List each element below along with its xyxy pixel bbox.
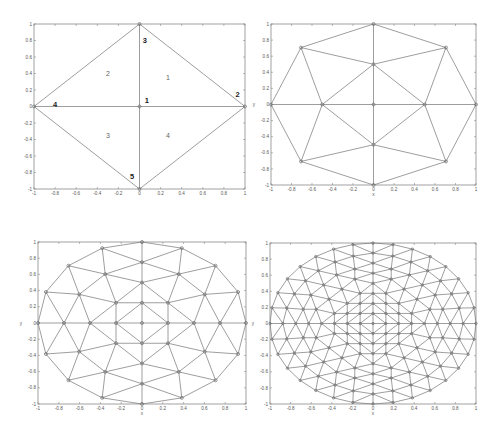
y-tick-label: 0.6 [26,55,33,60]
y-tick-label: 0.2 [26,88,33,93]
y-tick-label: 0.6 [262,273,269,278]
x-tick-label: -0.8 [287,406,295,411]
y-tick-label: 0.6 [263,54,270,59]
x-tick-label: 0.2 [157,191,164,196]
y-tick-label: -0.2 [260,337,268,342]
y-tick-label: -0.4 [28,353,36,358]
node-number-label: 3 [143,36,147,45]
node-number-label: 5 [130,172,134,181]
y-tick-label: -0.6 [28,369,36,374]
x-axis-label: x [372,411,375,416]
y-tick-label: -1 [28,187,33,192]
x-tick-label: 0.6 [201,406,208,411]
y-tick-label: 0 [265,321,268,326]
y-tick-label: 0 [266,102,269,107]
element-number-label: 2 [106,70,110,77]
y-tick-label: -0.4 [260,353,268,358]
x-tick-label: 0.8 [452,406,459,411]
x-tick-label: 1 [244,191,247,196]
x-tick-label: 1 [475,406,478,411]
x-tick-label: -1 [268,406,273,411]
y-tick-label: -1 [265,183,270,188]
y-tick-label: -0.4 [261,134,269,139]
node-number-label: 4 [53,100,58,109]
x-tick-label: 0.6 [432,187,439,192]
y-tick-label: 1 [265,241,268,246]
y-tick-label: 0.4 [26,71,33,76]
y-tick-label: -0.6 [260,369,268,374]
x-tick-label: 0.6 [200,191,207,196]
mesh-refinement-figure: -1-0.8-0.6-0.4-0.200.20.40.60.81-1-0.8-0… [0,0,500,439]
x-tick-label: 0.8 [452,187,459,192]
mesh-edges [38,242,246,404]
y-axis-label: y [20,321,23,326]
x-tick-label: 0.4 [179,191,186,196]
x-tick-label: 0 [138,191,141,196]
y-axis-label: y [253,102,256,107]
x-tick-label: 0.8 [221,191,228,196]
x-tick-label: -0.4 [328,406,336,411]
element-number-label: 3 [106,132,110,139]
y-tick-label: -1 [32,402,37,407]
y-tick-label: 0.2 [262,305,269,310]
x-tick-label: -0.2 [117,406,125,411]
y-axis-label: y [252,321,255,326]
x-tick-label: -1 [32,191,37,196]
x-tick-label: -0.6 [76,406,84,411]
y-tick-label: 1 [266,22,269,27]
y-tick-label: -0.8 [24,170,32,175]
x-tick-label: -0.4 [96,406,104,411]
panel-coarse-mesh: -1-0.8-0.6-0.4-0.200.20.40.60.81-1-0.8-0… [24,22,247,196]
x-tick-label: -0.8 [51,191,59,196]
y-tick-label: -0.4 [24,137,32,142]
x-tick-label: 0.4 [180,406,187,411]
x-tick-label: -0.8 [55,406,63,411]
y-tick-label: 0.4 [30,288,37,293]
x-tick-label: 1 [245,406,248,411]
mesh-edges [271,24,476,185]
y-tick-label: 0.8 [263,38,270,43]
y-tick-label: 0 [29,104,32,109]
y-tick-label: 0.2 [30,304,37,309]
y-tick-label: -1 [264,402,269,407]
y-tick-label: -0.8 [260,386,268,391]
y-tick-label: 0.6 [30,272,37,277]
element-number-label: 1 [166,74,170,81]
y-tick-label: -0.2 [261,118,269,123]
x-tick-label: -1 [36,406,41,411]
element-number-label: 4 [166,132,170,139]
y-tick-label: -0.6 [24,154,32,159]
panel-refined-mesh-3: -1-0.8-0.6-0.4-0.200.20.40.60.81-1-0.8-0… [252,241,478,416]
y-tick-label: -0.2 [28,337,36,342]
x-tick-label: 0.2 [391,187,398,192]
x-tick-label: -0.4 [93,191,101,196]
x-tick-label: 0.4 [411,187,418,192]
x-tick-label: 0.2 [390,406,397,411]
x-tick-label: 0.4 [411,406,418,411]
x-tick-label: 0.8 [222,406,229,411]
y-tick-label: 0.4 [263,70,270,75]
x-tick-label: -0.2 [349,187,357,192]
y-tick-label: 1 [33,240,36,245]
x-tick-label: 0.6 [432,406,439,411]
y-tick-label: 1 [29,22,32,27]
x-tick-label: -0.6 [307,406,315,411]
x-tick-label: -0.6 [308,187,316,192]
y-tick-label: 0.8 [30,256,37,261]
y-tick-label: -0.8 [261,167,269,172]
y-tick-label: -0.6 [261,150,269,155]
x-tick-label: -0.8 [288,187,296,192]
node-number-label: 2 [236,90,240,99]
y-tick-label: 0 [33,321,36,326]
x-tick-label: -0.2 [348,406,356,411]
x-tick-label: -1 [269,187,274,192]
x-axis-label: x [141,411,144,416]
panel-refined-mesh-1: -1-0.8-0.6-0.4-0.200.20.40.60.81-1-0.8-0… [253,22,478,197]
x-tick-label: -0.4 [329,187,337,192]
mesh-edges [34,24,245,189]
x-axis-label: x [372,192,375,197]
node-number-label: 1 [145,96,149,105]
y-tick-label: 0.8 [262,257,269,262]
y-tick-label: 0.8 [26,38,33,43]
panel-refined-mesh-2: -1-0.8-0.6-0.4-0.200.20.40.60.81-1-0.8-0… [20,240,248,416]
